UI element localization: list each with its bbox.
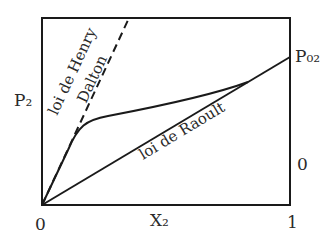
vapor-pressure-diagram: P₂ X₂ 0 1 0 P₀₂ loi de Henry Dalton loi … — [0, 0, 330, 245]
pure-pressure-label: P₀₂ — [295, 46, 320, 66]
y-axis-label: P₂ — [14, 90, 32, 110]
x-axis-label: X₂ — [150, 210, 169, 230]
x-min-tick: 0 — [35, 214, 46, 234]
right-axis-zero-tick: 0 — [297, 154, 308, 174]
x-max-tick: 1 — [287, 212, 298, 232]
